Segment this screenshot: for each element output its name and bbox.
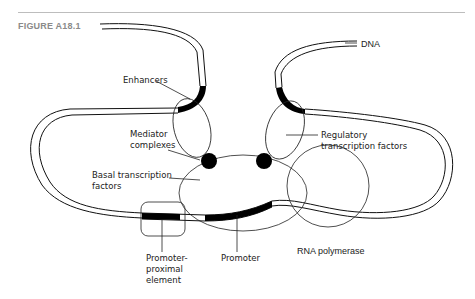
rna-polymerase-circle: [287, 145, 369, 227]
label-basal-1: Basal transcription: [92, 170, 172, 180]
label-rna-polymerase: RNA polymerase: [297, 246, 365, 256]
label-enhancers: Enhancers: [123, 75, 168, 85]
label-mediator-1: Mediator: [130, 129, 168, 139]
label-basal-2: factors: [92, 181, 122, 191]
label-promoter-proximal-2: proximal: [146, 264, 183, 274]
label-promoter: Promoter: [221, 253, 261, 263]
label-dna: DNA: [361, 39, 380, 49]
mediator-dot-left: [201, 153, 217, 169]
transcription-diagram: DNA Enhancers Mediator complexes Basal t…: [0, 0, 475, 299]
label-promoter-proximal-1: Promoter-: [146, 253, 188, 263]
mediator-dot-right: [256, 153, 272, 169]
mediator-leader: [168, 150, 200, 160]
label-regulatory-1: Regulatory: [321, 130, 367, 140]
label-mediator-2: complexes: [130, 140, 176, 150]
promoter-proximal-segment: [142, 213, 180, 220]
label-regulatory-2: transcription factors: [321, 141, 408, 151]
label-promoter-proximal-3: element: [146, 275, 182, 285]
promoter-segment: [205, 201, 272, 221]
basal-leader: [169, 178, 200, 180]
